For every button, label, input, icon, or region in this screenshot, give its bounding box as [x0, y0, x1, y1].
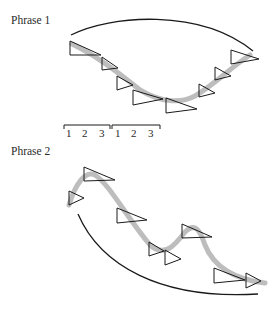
phrase-1-phrase-arc — [71, 19, 253, 51]
phrase-2-group — [69, 167, 265, 295]
phrase-1-group — [64, 19, 259, 129]
beat-number: 1 — [66, 127, 72, 139]
phrase-2-pitch-contour — [69, 174, 265, 283]
beat-number: 2 — [131, 127, 137, 139]
phrase-diagram — [0, 0, 278, 311]
beat-number: 3 — [99, 127, 105, 139]
beat-number: 3 — [148, 127, 154, 139]
phrase-2-note-triangle-5 — [165, 250, 181, 265]
beat-number: 2 — [82, 127, 88, 139]
phrase-2-phrase-arc — [78, 214, 258, 295]
phrase-1-pitch-contour — [72, 44, 250, 101]
beat-number: 1 — [115, 127, 121, 139]
diagram-stage: Phrase 1 Phrase 2 123123 — [0, 0, 278, 311]
